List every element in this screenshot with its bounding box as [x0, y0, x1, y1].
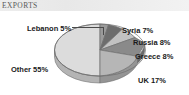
exports-pie-chart-widget: EXPORTS: [0, 0, 189, 95]
pie-label-syria: Syria 7%: [122, 26, 153, 35]
pie-label-lebanon: Lebanon 5%: [27, 24, 71, 33]
pie-label-uk: UK 17%: [138, 76, 166, 85]
header-bar: EXPORTS: [0, 0, 189, 11]
page-title: EXPORTS: [2, 1, 38, 10]
pie-label-russia: Russia 8%: [133, 38, 171, 47]
pie-label-other: Other 55%: [11, 65, 48, 74]
leader-line-lebanon: [72, 27, 104, 35]
pie-label-greece: Greece 8%: [135, 52, 173, 61]
chart-plot-area: Lebanon 5% Syria 7% Russia 8% Greece 8% …: [0, 11, 189, 95]
